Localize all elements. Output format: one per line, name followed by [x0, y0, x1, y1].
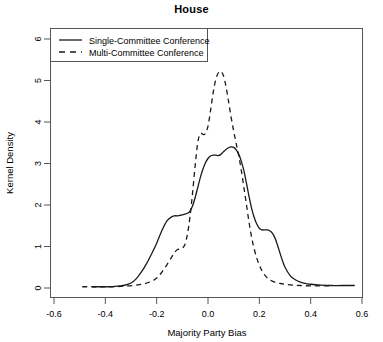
y-axis: 0123456	[33, 36, 51, 290]
x-tick-label: 0.2	[253, 309, 266, 319]
plot-frame	[51, 29, 363, 298]
legend-label-single-committee-conference: Single-Committee Conference	[89, 36, 210, 46]
x-tick-label: -0.2	[149, 309, 165, 319]
x-tick-label: 0.0	[202, 309, 215, 319]
legend-label-multi-committee-conference: Multi-Committee Conference	[89, 48, 204, 58]
y-tick-label: 5	[33, 78, 43, 83]
series-multi-committee-conference	[82, 71, 331, 287]
y-tick-label: 0	[33, 285, 43, 290]
legend: Single-Committee Conference Multi-Commit…	[51, 29, 210, 62]
y-tick-label: 4	[33, 119, 43, 124]
kernel-density-figure: House 0123456 -0.6-0.4-0.20.00.20.40.6 M…	[0, 0, 383, 342]
x-axis-title: Majority Party Bias	[167, 327, 246, 338]
x-tick-label: -0.4	[98, 309, 114, 319]
y-tick-label: 1	[33, 244, 43, 249]
y-tick-label: 2	[33, 202, 43, 207]
x-tick-label: -0.6	[46, 309, 62, 319]
x-tick-label: 0.6	[356, 309, 369, 319]
series-single-committee-conference	[93, 147, 355, 287]
y-tick-label: 3	[33, 161, 43, 166]
y-axis-title: Kernel Density	[4, 132, 15, 194]
chart-canvas: 0123456 -0.6-0.4-0.20.00.20.40.6 Majorit…	[0, 0, 383, 342]
x-tick-label: 0.4	[304, 309, 317, 319]
y-tick-label: 6	[33, 36, 43, 41]
x-axis: -0.6-0.4-0.20.00.20.40.6	[46, 298, 368, 320]
